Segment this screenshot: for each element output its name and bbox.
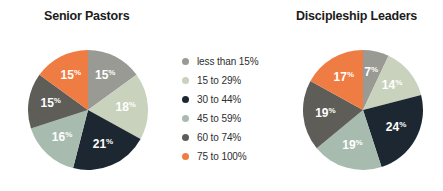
page-title-discipleship-leaders: Discipleship Leaders (296, 9, 417, 23)
legend-item[interactable]: 15 to 29% (182, 71, 282, 90)
legend-swatch-icon (182, 115, 189, 122)
legend-item[interactable]: 45 to 59% (182, 109, 282, 128)
legend-swatch-icon (182, 153, 189, 160)
chart-legend: less than 15%15 to 29%30 to 44%45 to 59%… (182, 52, 282, 166)
legend-item[interactable]: less than 15% (182, 52, 282, 71)
legend-swatch-icon (182, 77, 189, 84)
legend-swatch-icon (182, 58, 189, 65)
infographic-canvas: Senior Pastors Discipleship Leaders 15%1… (0, 0, 443, 191)
pie-svg-senior-pastors: 15%18%21%16%15%15% (27, 49, 149, 171)
legend-item-label: less than 15% (197, 56, 259, 67)
legend-item[interactable]: 60 to 74% (182, 128, 282, 147)
legend-item[interactable]: 30 to 44% (182, 90, 282, 109)
pie-chart-discipleship-leaders: 7%14%24%19%19%17% (302, 49, 424, 171)
legend-item-label: 75 to 100% (197, 151, 247, 162)
legend-item-label: 45 to 59% (197, 113, 241, 124)
pie-svg-discipleship-leaders: 7%14%24%19%19%17% (302, 49, 424, 171)
legend-swatch-icon (182, 96, 189, 103)
legend-item-label: 30 to 44% (197, 94, 241, 105)
pie-chart-senior-pastors: 15%18%21%16%15%15% (27, 49, 149, 171)
legend-item-label: 15 to 29% (197, 75, 241, 86)
legend-item-label: 60 to 74% (197, 132, 241, 143)
legend-swatch-icon (182, 134, 189, 141)
legend-item[interactable]: 75 to 100% (182, 147, 282, 166)
page-title-senior-pastors: Senior Pastors (44, 9, 129, 23)
